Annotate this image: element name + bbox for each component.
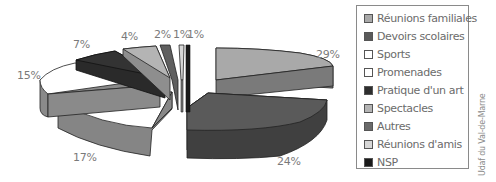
- legend-item: Réunions familiales: [364, 9, 468, 27]
- slice-devoirs-scolaires: [187, 93, 327, 159]
- legend-label: Sports: [377, 48, 410, 61]
- slice-nsp: [186, 45, 190, 112]
- legend-label: Autres: [377, 120, 411, 133]
- slice-reunions-amis: [179, 45, 184, 112]
- legend-label: Réunions familiales: [377, 12, 477, 25]
- legend-label: Réunions d'amis: [377, 138, 462, 151]
- legend-swatch: [364, 32, 373, 41]
- legend-swatch: [364, 14, 373, 23]
- legend-item: Réunions d'amis: [364, 135, 468, 153]
- legend-swatch: [364, 140, 373, 149]
- legend-item: NSP: [364, 153, 468, 171]
- pct-label-devoirs-scolaires: 24%: [277, 155, 301, 168]
- legend-item: Autres: [364, 117, 468, 135]
- legend-label: Pratique d'un art: [377, 84, 463, 97]
- pct-label-pratique-art: 7%: [73, 38, 90, 51]
- legend-item: Pratique d'un art: [364, 81, 468, 99]
- legend-item: Spectacles: [364, 99, 468, 117]
- legend-item: Devoirs scolaires: [364, 27, 468, 45]
- legend-item: Promenades: [364, 63, 468, 81]
- legend-swatch: [364, 68, 373, 77]
- pct-label-reunions-familiales: 29%: [316, 48, 340, 61]
- chart-legend: Réunions familiales Devoirs scolaires Sp…: [356, 5, 469, 169]
- legend-swatch: [364, 50, 373, 59]
- legend-item: Sports: [364, 45, 468, 63]
- legend-label: Devoirs scolaires: [377, 30, 464, 43]
- source-credit: Udaf du Val-de-Marne: [478, 93, 487, 176]
- legend-swatch: [364, 104, 373, 113]
- pct-label-sports: 17%: [73, 151, 97, 164]
- legend-label: Promenades: [377, 66, 442, 79]
- legend-swatch: [364, 86, 373, 95]
- pct-label-spectacles: 4%: [121, 30, 138, 43]
- legend-swatch: [364, 122, 373, 131]
- pct-label-nsp: 1%: [187, 28, 204, 41]
- legend-swatch: [364, 158, 373, 167]
- legend-label: Spectacles: [377, 102, 433, 115]
- pct-label-promenades: 15%: [17, 69, 41, 82]
- pct-label-autres: 2%: [154, 28, 171, 41]
- legend-label: NSP: [377, 156, 398, 169]
